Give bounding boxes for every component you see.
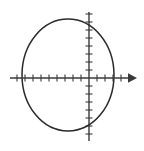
coordinate-plane-svg — [0, 0, 144, 151]
figure-container — [0, 0, 144, 151]
